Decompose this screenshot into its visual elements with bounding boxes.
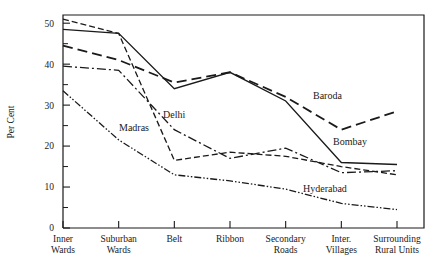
series-label-hyderabad: Hyderabad — [303, 183, 347, 194]
x-tick-label: SurroundingRural Units — [373, 234, 421, 255]
x-axis-tick-labels: InnerWardsSuburbanWardsBeltRibbonSeconda… — [51, 234, 421, 255]
series-annotations: MadrasBombayBarodaDelhiHyderabad — [119, 90, 367, 194]
series-line-madras — [63, 19, 397, 175]
y-tick-label: 10 — [45, 182, 55, 192]
y-axis-tick-labels: 01020304050 — [45, 19, 55, 234]
series-line-delhi — [63, 66, 397, 173]
y-tick-label: 0 — [49, 223, 54, 233]
series-label-delhi: Delhi — [163, 109, 185, 120]
y-tick-label: 50 — [45, 19, 55, 29]
line-chart: 01020304050 InnerWardsSuburbanWardsBeltR… — [0, 0, 443, 268]
series-label-bombay: Bombay — [333, 136, 367, 147]
plot-border — [63, 15, 424, 228]
x-tick-label: InnerWards — [51, 234, 75, 255]
y-axis-title-text: Per Cent — [6, 105, 16, 138]
y-tick-label: 30 — [45, 101, 55, 111]
series-line-baroda — [63, 46, 397, 130]
series-line-hyderabad — [63, 91, 397, 210]
x-axis-ticks — [63, 221, 397, 228]
x-tick-label: SuburbanWards — [100, 234, 137, 255]
y-axis-title: Per Cent — [6, 105, 16, 138]
series-lines — [63, 19, 397, 210]
y-tick-label: 20 — [45, 141, 55, 151]
x-tick-label: Ribbon — [216, 234, 244, 244]
chart-container: 01020304050 InnerWardsSuburbanWardsBeltR… — [0, 0, 443, 268]
plot-frame — [63, 15, 424, 228]
x-tick-label: SecondaryRoads — [266, 234, 306, 255]
x-tick-label: Inter.Villages — [326, 234, 357, 255]
y-axis-ticks — [63, 23, 70, 228]
x-tick-label: Belt — [166, 234, 182, 244]
series-label-baroda: Baroda — [313, 90, 342, 101]
y-tick-label: 40 — [45, 60, 55, 70]
series-label-madras: Madras — [119, 122, 149, 133]
